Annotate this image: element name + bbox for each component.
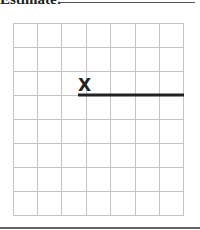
- grid-lines: [13, 23, 184, 216]
- estimate-answer-line[interactable]: [59, 2, 195, 3]
- bottom-rule: [0, 227, 200, 229]
- grid-paper: X: [13, 23, 184, 216]
- estimate-label: Estimate:: [0, 0, 62, 8]
- x-marker-icon: X: [78, 77, 91, 94]
